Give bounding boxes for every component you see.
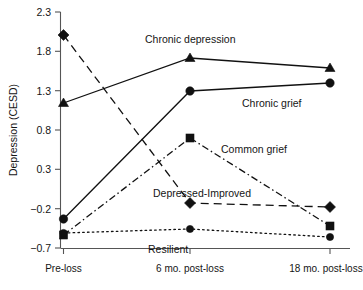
y-tick-label-neg0.7: −0.7 [30,242,51,254]
marker-circle-6mo [186,87,194,95]
marker-diamond-18mo [325,202,336,213]
marker-resilient-6mo [186,225,193,232]
marker-circle-18mo [326,79,334,87]
series-resilient [60,225,334,240]
y-axis-title: Depression (CESD) [7,84,19,176]
label-chronic-depression: Chronic depression [145,33,236,45]
marker-square-18mo [326,222,334,230]
label-resilient: Resilient [148,243,188,255]
y-axis: 2.3 1.8 1.3 0.8 0.3 −0.2 −0.7 Depression… [7,6,61,254]
chart-canvas: 2.3 1.8 1.3 0.8 0.3 −0.2 −0.7 Depression… [0,0,363,290]
y-tick-label-neg0.2: −0.2 [30,203,51,215]
marker-diamond-6mo [185,198,196,209]
label-common-grief: Common grief [221,143,287,155]
marker-triangle-6mo [185,53,195,62]
y-tick-label-1.3: 1.3 [36,85,51,97]
y-tick-label-1.8: 1.8 [36,45,51,57]
marker-diamond-preloss [58,30,69,41]
marker-resilient-preloss [60,229,67,236]
marker-square-6mo [186,134,194,142]
y-tick-label-0.8: 0.8 [36,124,51,136]
label-chronic-grief: Chronic grief [242,97,302,109]
marker-resilient-18mo [326,233,333,240]
y-tick-label-2.3: 2.3 [36,6,51,18]
x-tick-label-18mo: 18 mo. post-loss [289,263,362,274]
depression-trajectory-chart: 2.3 1.8 1.3 0.8 0.3 −0.2 −0.7 Depression… [0,0,363,290]
y-tick-label-0.3: 0.3 [36,163,51,175]
series-line-depressed-improved [64,35,331,207]
x-tick-label-pre-loss: Pre-loss [45,263,82,274]
series-line-resilient [64,229,331,237]
series-depressed-improved [58,30,336,213]
x-tick-label-6mo: 6 mo. post-loss [156,263,224,274]
marker-circle-preloss [59,215,67,223]
label-depressed-improved: Depressed-Improved [153,187,251,199]
x-axis: Pre-loss 6 mo. post-loss 18 mo. post-los… [45,249,363,275]
